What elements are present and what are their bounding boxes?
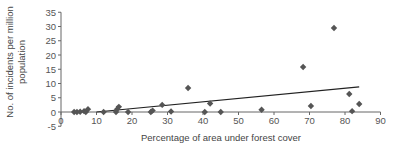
y-tick-label: 25: [45, 35, 56, 46]
y-tick-label: -5: [48, 121, 56, 132]
y-tick-label: 15: [45, 64, 56, 75]
data-point: [300, 64, 306, 70]
y-tick-label: 5: [51, 92, 56, 103]
data-point: [308, 103, 314, 109]
plot-area: -5051015202530350102030405060708090: [45, 7, 385, 132]
y-tick-label: 35: [45, 7, 56, 18]
y-tick-label: 20: [45, 50, 56, 61]
data-point: [168, 108, 174, 114]
data-point: [346, 91, 352, 97]
data-point: [159, 102, 165, 108]
x-axis-title: Percentage of area under forest cover: [141, 132, 301, 143]
data-point: [349, 108, 355, 114]
x-tick-label: 40: [198, 115, 209, 126]
y-tick-label: 10: [45, 78, 56, 89]
data-point: [331, 25, 337, 31]
y-tick-label: 30: [45, 21, 56, 32]
scatter-chart: No. of incidents per million population …: [0, 0, 408, 149]
x-tick-label: 90: [375, 115, 386, 126]
data-point: [185, 85, 191, 91]
x-tick-label: 50: [233, 115, 244, 126]
y-tick-label: 0: [51, 107, 56, 118]
x-tick-label: 80: [340, 115, 351, 126]
x-tick-label: 60: [269, 115, 280, 126]
trend-line: [97, 87, 360, 112]
y-axis-title-line-2: population: [16, 40, 27, 84]
data-point: [356, 101, 362, 107]
x-tick-label: 10: [91, 115, 102, 126]
x-tick-label: 0: [58, 115, 63, 126]
y-axis-title: No. of incidents per million population: [4, 6, 27, 117]
data-point: [218, 109, 224, 115]
y-axis-title-line-1: No. of incidents per million: [4, 6, 15, 117]
x-tick-label: 70: [304, 115, 315, 126]
x-tick-label: 30: [162, 115, 173, 126]
x-tick-label: 20: [127, 115, 138, 126]
